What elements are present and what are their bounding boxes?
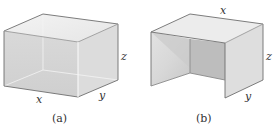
figure-canvas: x y z (a) x y z (b) [0, 0, 276, 126]
caption-b: (b) [196, 112, 212, 125]
label-a-x: x [36, 93, 43, 106]
label-b-y: y [244, 90, 252, 103]
label-b-z: z [265, 50, 272, 63]
figure-b-open-box: x y z (b) [151, 4, 272, 125]
label-a-z: z [120, 50, 127, 63]
label-b-x: x [220, 4, 227, 17]
box-a-front-face [4, 31, 78, 97]
figure-a-closed-box: x y z (a) [4, 14, 127, 125]
label-a-y: y [98, 89, 106, 102]
caption-a: (a) [52, 112, 67, 125]
